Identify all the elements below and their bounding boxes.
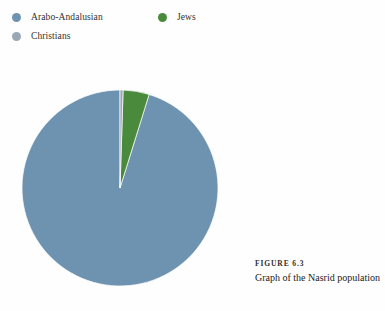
figure-number: FIGURE 6.3 — [255, 258, 383, 269]
pie-slice-group — [22, 90, 218, 286]
circle-swatch-icon — [12, 32, 21, 41]
legend-item-arabo-andalusian[interactable]: Arabo-Andalusian — [12, 12, 103, 23]
pie-chart — [22, 60, 218, 296]
legend-item-label: Christians — [31, 31, 71, 42]
figure-container: Arabo-Andalusian Jews Christians FIGURE … — [0, 0, 385, 311]
circle-swatch-icon — [158, 13, 167, 22]
figure-caption: FIGURE 6.3 Graph of the Nasrid populatio… — [255, 258, 383, 284]
circle-swatch-icon — [12, 13, 21, 22]
figure-caption-text: Graph of the Nasrid population — [255, 271, 383, 284]
legend-item-label: Arabo-Andalusian — [31, 12, 103, 23]
legend-item-jews[interactable]: Jews — [158, 12, 196, 23]
pie-chart-svg — [22, 60, 218, 296]
legend-item-label: Jews — [177, 12, 196, 23]
legend-item-christians[interactable]: Christians — [12, 31, 71, 42]
